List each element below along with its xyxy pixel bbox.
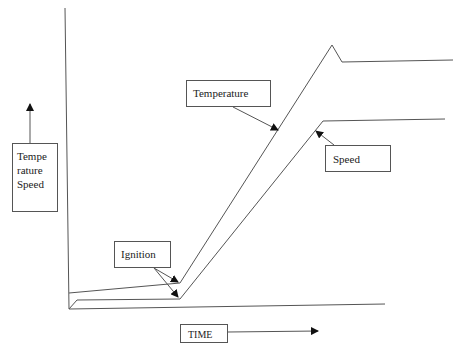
ignition-temperature-arrow-icon <box>154 268 178 282</box>
time-arrow-icon <box>228 331 318 332</box>
temperature-callout-arrow-icon <box>233 107 278 130</box>
x-axis-label: TIME <box>180 324 228 343</box>
y-axis-label-box: Tempe rature Speed <box>12 143 58 212</box>
ignition-speed-arrow-icon <box>154 268 178 297</box>
speed-label: Speed <box>325 145 391 172</box>
x-axis <box>69 304 385 309</box>
diagram-canvas <box>0 0 464 356</box>
y-axis-label-line-2: rature <box>17 163 53 177</box>
y-axis-label-line-3: Speed <box>17 177 53 191</box>
y-axis <box>65 8 69 309</box>
y-axis-label-line-1: Tempe <box>17 149 53 163</box>
speed-callout-arrow-icon <box>316 131 334 145</box>
ignition-label: Ignition <box>114 241 171 268</box>
temperature-label: Temperature <box>186 80 271 107</box>
